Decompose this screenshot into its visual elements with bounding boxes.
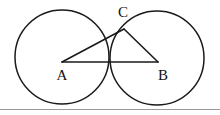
segment-ac [62, 29, 124, 62]
label-vertex-b: B [158, 67, 168, 83]
label-vertex-c: C [118, 4, 128, 20]
segment-cb [124, 29, 158, 62]
label-vertex-a: A [57, 67, 68, 83]
figure-canvas: A B C [0, 0, 220, 115]
circle-right [110, 11, 204, 105]
circle-left [15, 10, 109, 104]
geometry-figure: A B C [0, 0, 220, 115]
